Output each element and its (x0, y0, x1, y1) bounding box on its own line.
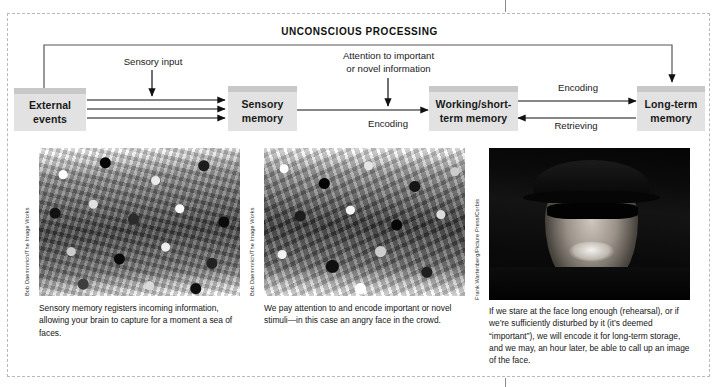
flow-label-attention: Attention to important or novel informat… (311, 50, 466, 76)
flow-box-external-events: External events (14, 88, 86, 131)
photo-face-closeup (489, 148, 690, 300)
photo-crowd-wide (39, 148, 240, 296)
face-open-mouth (569, 242, 613, 262)
crowd-image-2 (264, 148, 465, 296)
photo-credit-3: Frank Wartenberg/Picture Press/Corbis (474, 150, 480, 300)
flow-label-retrieving: Retrieving (530, 120, 622, 133)
flow-box-external-events-label: External events (29, 99, 71, 127)
photo-credit-1: Bob Daemmrich/The Image Works (24, 146, 30, 296)
photo-credit-2: Bob Daemmrich/The Image Works (249, 146, 255, 296)
crop-mark-bottom (505, 378, 506, 387)
face-shoulders (489, 267, 690, 300)
flow-box-long-term-memory: Long-term memory (637, 86, 705, 131)
flow-box-working-memory-label: Working/short- term memory (436, 98, 512, 126)
flow-label-sensory-input: Sensory input (113, 56, 193, 69)
flow-box-sensory-memory-label: Sensory memory (241, 98, 283, 126)
panel-caption-3: If we stare at the face long enough (reh… (489, 305, 692, 366)
flow-label-encoding-longterm: Encoding (532, 82, 624, 95)
crowd-image-1 (39, 148, 240, 296)
panel-caption-2: We pay attention to and encode important… (264, 302, 467, 327)
flow-box-long-term-memory-label: Long-term memory (645, 98, 698, 126)
figure-root: UNCONSCIOUS PROCESSING (0, 0, 719, 387)
face-sunglasses (547, 203, 637, 220)
flow-box-sensory-memory: Sensory memory (228, 86, 297, 131)
flow-label-encoding-sensory: Encoding (342, 118, 434, 131)
photo-crowd-angry-face (264, 148, 465, 296)
panel-caption-1: Sensory memory registers incoming inform… (39, 302, 242, 339)
flow-box-working-memory: Working/short- term memory (429, 86, 518, 131)
flow-diagram: UNCONSCIOUS PROCESSING (0, 0, 719, 145)
face-image-3 (489, 148, 690, 300)
